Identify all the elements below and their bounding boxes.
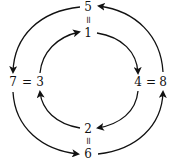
node-4: 4 — [134, 76, 142, 88]
arrow-3-to-1 — [40, 32, 79, 73]
node-3: 3 — [36, 76, 44, 88]
node-8: 8 — [159, 76, 167, 88]
arrow-7-to-6 — [13, 92, 78, 154]
equals-sign-top: = — [82, 16, 94, 24]
arrow-2-to-3 — [40, 92, 80, 128]
arrow-6-to-8 — [98, 92, 163, 154]
arrow-4-to-2 — [98, 91, 138, 128]
arrow-1-to-4 — [97, 33, 138, 73]
equals-sign-left: = — [22, 76, 32, 88]
equals-sign-bottom: = — [82, 137, 94, 145]
node-1: 1 — [84, 27, 92, 39]
node-5: 5 — [84, 1, 92, 13]
equals-sign-right: = — [146, 76, 156, 88]
node-7: 7 — [9, 76, 17, 88]
arrow-5-to-7 — [13, 7, 80, 72]
node-6: 6 — [84, 148, 92, 160]
node-2: 2 — [84, 123, 92, 135]
arrow-8-to-5 — [99, 6, 163, 72]
